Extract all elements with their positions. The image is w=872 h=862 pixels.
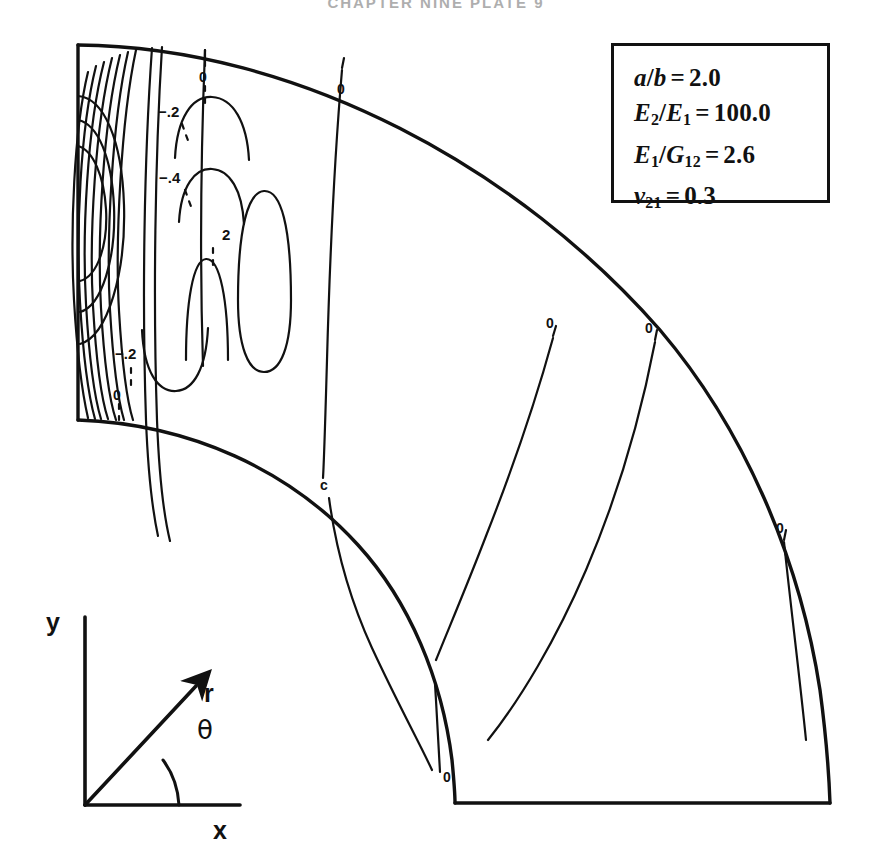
figure-root: CHAPTER NINE PLATE 9	[0, 0, 872, 862]
inset-label-y: y	[46, 610, 60, 635]
inset-r-vector	[85, 686, 196, 805]
inset-label-theta: θ	[197, 717, 213, 743]
coordinate-inset	[0, 0, 872, 862]
inset-theta-arc	[163, 760, 179, 805]
inset-label-x: x	[213, 818, 227, 843]
inset-label-r: r	[204, 681, 214, 706]
